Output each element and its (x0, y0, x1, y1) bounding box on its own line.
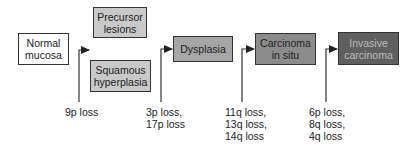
node-invasive-carcinoma: Invasive carcinoma (338, 32, 399, 65)
arrow-6p-8q-4q (326, 49, 337, 102)
node-label: Carcinoma in situ (260, 37, 311, 61)
node-label: Dysplasia (180, 43, 226, 55)
event-label-11q-13q-14q: 11q loss, 13q loss, 14q loss (225, 106, 267, 142)
node-normal-mucosa: Normal mucosa (18, 33, 69, 65)
event-label-3p-17p: 3p loss, 17p loss (146, 106, 185, 130)
event-label-6p-8q-4q: 6p loss, 8q loss, 4q loss (309, 106, 345, 142)
node-carcinoma-in-situ: Carcinoma in situ (255, 33, 316, 65)
event-label-9p: 9p loss (65, 106, 98, 118)
node-squamous-hyperplasia: Squamous hyperplasia (90, 60, 151, 92)
node-precursor-lesions: Precursor lesions (93, 7, 147, 38)
arrows-layer (0, 0, 409, 150)
node-label: Squamous hyperplasia (94, 64, 148, 88)
node-label: Invasive carcinoma (344, 37, 392, 61)
arrow-11q-13q-14q (242, 49, 254, 102)
node-label: Precursor lesions (97, 11, 143, 35)
node-dysplasia: Dysplasia (173, 36, 233, 62)
arrow-3p-17p (161, 49, 172, 102)
arrow-9p (79, 50, 89, 102)
node-label: Normal mucosa (25, 37, 62, 61)
